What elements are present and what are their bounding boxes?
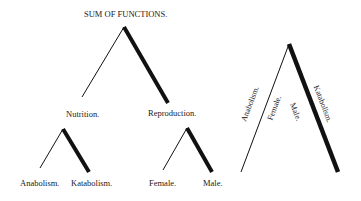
node-nutrition: Nutrition. [66,110,99,119]
node-reproduction: Reproduction. [148,109,196,118]
branch-thin [82,27,124,97]
branch-thick [187,128,212,172]
node-katabolism: Katabolism. [71,179,112,188]
title-label: SUM OF FUNCTIONS. [84,10,167,19]
diagram-lines [0,0,361,201]
node-male: Male. [203,179,223,188]
branch-thin [40,129,63,168]
branch-thick [124,27,168,103]
branch-thin [163,128,187,170]
branch-thick [63,129,89,172]
node-anabolism: Anabolism. [20,179,59,188]
node-female: Female. [149,179,176,188]
